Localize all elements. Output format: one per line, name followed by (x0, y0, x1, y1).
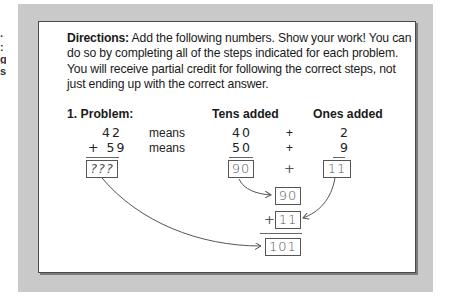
flow-arrows (39, 22, 415, 272)
arrow-ones-to-combine (303, 178, 335, 218)
cutoff-text-fragment: g (0, 54, 6, 64)
cutoff-text-fragment: s (0, 66, 6, 76)
cutoff-text-fragment: : (0, 42, 6, 52)
cutoff-text-fragment: . (0, 28, 6, 38)
arrow-tens-to-combine (239, 179, 271, 195)
arrow-answer-to-result (102, 178, 261, 246)
worksheet-card: Directions: Add the following numbers. S… (38, 21, 416, 273)
